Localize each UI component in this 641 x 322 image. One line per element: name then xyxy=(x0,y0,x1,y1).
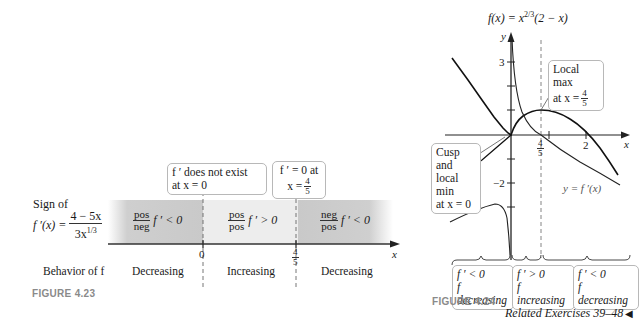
y-tick-neg2: −2 xyxy=(493,177,505,189)
interval-box-2: f ′ > 0 f increasing xyxy=(512,265,575,310)
interval-1-line1: f ′ < 0 xyxy=(457,268,509,281)
x-tick-four-fifths: 4 5 xyxy=(537,138,544,158)
interval-2-line2: f increasing xyxy=(517,281,570,307)
function-label: f(x) = x2/3(2 − x) xyxy=(488,10,568,26)
x-tick-2: 2 xyxy=(583,139,589,151)
local-max-den: 5 xyxy=(582,99,587,108)
x-tick-den: 5 xyxy=(538,149,543,158)
local-max-line1: Local max xyxy=(553,63,599,89)
related-exercises: Related Exercises 39–48◀ xyxy=(505,306,633,321)
end-of-example-marker-icon: ◀ xyxy=(625,308,633,319)
x-axis-label-graph: x xyxy=(624,138,629,150)
local-max-fraction: 4 5 xyxy=(581,89,588,108)
x-tick-fraction: 4 5 xyxy=(537,139,544,158)
related-exercises-link[interactable]: Related Exercises 39–48 xyxy=(505,306,623,320)
local-max-line2: at x = 4 5 xyxy=(553,89,599,108)
interval-3-line2: f decreasing xyxy=(578,281,634,307)
interval-3-line1: f ′ < 0 xyxy=(578,268,634,281)
figure-4-24-caption: FIGURE 4.24 xyxy=(432,296,495,307)
interval-2-line1: f ′ > 0 xyxy=(517,268,570,281)
interval-box-3: f ′ < 0 f decreasing xyxy=(573,265,639,310)
cusp-line3: at x = 0 xyxy=(436,198,476,211)
derivative-curve-label: y = f ′(x) xyxy=(563,182,601,194)
local-max-prefix: at x = xyxy=(553,92,579,105)
function-label-exponent: 2/3 xyxy=(524,10,534,19)
function-label-suffix: (2 − x) xyxy=(534,11,567,25)
callout-local-max: Local max at x = 4 5 xyxy=(548,60,604,111)
callout-cusp: Cusp and local min at x = 0 xyxy=(431,143,481,214)
y-axis-label: y xyxy=(501,30,506,42)
function-label-prefix: f(x) = x xyxy=(488,11,524,25)
cusp-line1: Cusp and xyxy=(436,146,476,172)
y-tick-3: 3 xyxy=(499,56,505,68)
cusp-line2: local min xyxy=(436,172,476,198)
